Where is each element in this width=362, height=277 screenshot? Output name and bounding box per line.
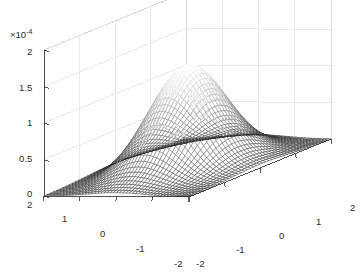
x-axis-tick-label: 1 (316, 217, 321, 227)
z-axis-tick-label: 0.5 (19, 154, 33, 164)
y-axis-tick-label: 2 (27, 200, 32, 210)
z-axis-tick-label: 1 (27, 118, 32, 128)
x-axis-tick-label: -1 (236, 245, 245, 255)
z-axis-tick-label: 2 (27, 47, 32, 57)
x-axis-tick-label: 2 (350, 203, 355, 213)
y-axis-tick-label: 0 (100, 229, 105, 239)
y-axis-tick-label: 1 (62, 214, 67, 224)
z-axis-tick-label: 0 (27, 189, 32, 199)
z-axis-tick-label: 1.5 (19, 83, 33, 93)
x-axis-tick-label: -2 (196, 259, 205, 269)
gaussian-surface-mesh (44, 65, 331, 197)
x-axis-tick-label: 0 (279, 231, 284, 241)
y-axis-tick-label: -2 (174, 259, 183, 269)
figure-canvas: ×10-4 21.510.50210-1-2-2-1012 (0, 0, 362, 277)
y-axis-tick-label: -1 (136, 244, 145, 254)
surface-plot (0, 0, 362, 277)
